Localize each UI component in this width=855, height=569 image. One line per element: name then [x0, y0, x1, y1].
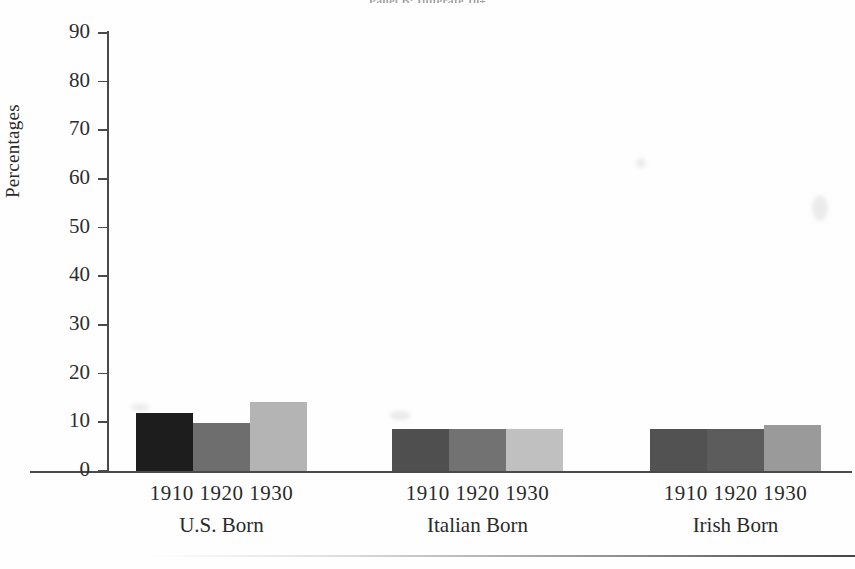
bar-u-s-born-1920: [193, 423, 250, 471]
y-axis-label: Percentages: [2, 38, 24, 198]
y-axis-tick-mark: [98, 178, 108, 180]
y-axis-tick-label: 70: [32, 118, 90, 140]
bar-irish-born-1930: [764, 425, 821, 471]
y-axis-tick-mark: [98, 32, 108, 34]
y-axis-tick-text: 90: [38, 21, 90, 42]
scan-smudge: [812, 195, 828, 221]
y-axis-tick-label: 10: [32, 410, 90, 432]
y-axis-line: [107, 31, 109, 473]
y-axis-tick-label: 90: [32, 21, 90, 43]
x-axis-year-labels: 1910 1920 1930: [136, 481, 307, 506]
x-axis-group-name: Irish Born: [650, 513, 821, 538]
y-axis-tick-mark: [98, 275, 108, 277]
y-axis-tick-text: 80: [38, 70, 90, 91]
bar-irish-born-1920: [707, 429, 764, 471]
bar-irish-born-1910: [650, 429, 707, 471]
x-axis-group-name: U.S. Born: [136, 513, 307, 538]
y-axis-tick-mark: [98, 129, 108, 131]
y-axis-tick-label: 60: [32, 167, 90, 189]
x-axis-year-labels: 1910 1920 1930: [650, 481, 821, 506]
scan-artifact-line: [150, 555, 855, 557]
y-axis-tick-text: 70: [38, 118, 90, 139]
y-axis-tick-label: 20: [32, 362, 90, 384]
y-axis-tick-text: 50: [38, 216, 90, 237]
y-axis-tick-text: 20: [38, 362, 90, 383]
y-axis-tick-label: 0: [32, 459, 90, 481]
y-axis-tick-text: 0: [38, 459, 90, 480]
chart-figure: Panel B: Illiterate 10+ Percentages 9080…: [0, 0, 855, 569]
bar-u-s-born-1910: [136, 413, 193, 471]
y-axis-tick-text: 40: [38, 264, 90, 285]
y-axis-tick-mark: [98, 470, 108, 472]
x-axis-group-name: Italian Born: [392, 513, 563, 538]
bar-italian-born-1910: [392, 429, 449, 471]
y-axis-tick-mark: [98, 324, 108, 326]
y-axis-tick-text: 60: [38, 167, 90, 188]
y-axis-tick-mark: [98, 421, 108, 423]
bar-italian-born-1920: [449, 429, 506, 471]
scan-smudge: [636, 158, 646, 168]
scan-smudge: [131, 404, 149, 411]
y-axis-tick-label: 40: [32, 264, 90, 286]
y-axis-tick-mark: [98, 227, 108, 229]
x-axis-line: [30, 471, 852, 473]
y-axis-tick-mark: [98, 81, 108, 83]
y-axis-tick-label: 30: [32, 313, 90, 335]
y-axis-tick-mark: [98, 373, 108, 375]
bar-italian-born-1930: [506, 429, 563, 471]
x-axis-year-labels: 1910 1920 1930: [392, 481, 563, 506]
y-axis-tick-label: 80: [32, 70, 90, 92]
y-axis-tick-label: 50: [32, 216, 90, 238]
scan-smudge: [389, 411, 411, 420]
y-axis-tick-text: 10: [38, 410, 90, 431]
y-axis-tick-text: 30: [38, 313, 90, 334]
bar-u-s-born-1930: [250, 402, 307, 471]
chart-title: Panel B: Illiterate 10+: [0, 0, 855, 3]
